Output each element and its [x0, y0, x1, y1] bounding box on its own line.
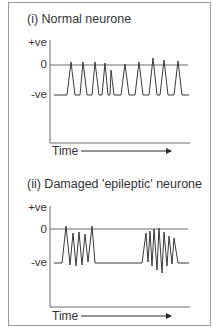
- panel-2-burst-trace: [54, 226, 189, 273]
- panel-1-axes: [50, 40, 190, 143]
- panel-1-spike-trace: [54, 58, 189, 95]
- diagram-graphics: [0, 0, 222, 335]
